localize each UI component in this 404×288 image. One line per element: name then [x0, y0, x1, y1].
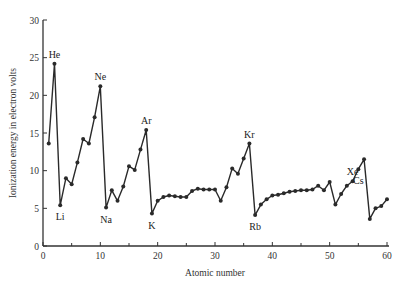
element-label-na: Na	[100, 214, 112, 225]
data-point	[328, 180, 332, 184]
y-tick-label: 15	[30, 129, 40, 139]
data-point	[333, 203, 337, 207]
data-point	[87, 142, 91, 146]
ionization-energy-chart: 0510152025300102030405060 HeNeArKrXeLiNa…	[0, 0, 404, 288]
data-series	[47, 62, 389, 221]
x-axis-title: Atomic number	[185, 268, 246, 278]
data-point	[247, 142, 251, 146]
data-point	[219, 199, 223, 203]
element-label-rb: Rb	[249, 221, 261, 232]
data-point	[127, 164, 131, 168]
element-annotations: HeNeArKrXeLiNaKRbCs	[49, 49, 364, 232]
data-point	[310, 188, 314, 192]
data-point	[196, 187, 200, 191]
element-label-k: K	[148, 220, 156, 231]
x-tick-label: 10	[96, 251, 106, 261]
data-point	[339, 192, 343, 196]
data-point	[202, 188, 206, 192]
element-label-ne: Ne	[94, 71, 106, 82]
data-point	[150, 212, 154, 216]
chart-axes	[43, 20, 389, 246]
data-point	[110, 188, 114, 192]
element-label-kr: Kr	[244, 129, 255, 140]
data-point	[374, 206, 378, 210]
data-point	[224, 185, 228, 189]
data-point	[98, 84, 102, 88]
x-tick-label: 40	[268, 251, 278, 261]
data-point	[368, 217, 372, 221]
data-point	[379, 204, 383, 208]
y-tick-label: 10	[30, 166, 40, 176]
y-tick-label: 25	[30, 53, 40, 63]
data-point	[305, 188, 309, 192]
y-axis-title: Ionization energy in electron volts	[8, 68, 18, 198]
data-point	[121, 184, 125, 188]
data-point	[276, 193, 280, 197]
x-tick-label: 0	[41, 251, 46, 261]
data-point	[322, 188, 326, 192]
data-point	[265, 197, 269, 201]
data-point	[345, 184, 349, 188]
x-tick-label: 20	[153, 251, 163, 261]
y-tick-label: 20	[30, 91, 40, 101]
x-tick-label: 50	[325, 251, 335, 261]
data-point	[47, 142, 51, 146]
data-point	[293, 189, 297, 193]
data-point	[385, 197, 389, 201]
data-point	[167, 194, 171, 198]
data-point	[184, 195, 188, 199]
data-point	[138, 148, 142, 152]
data-point	[81, 137, 85, 141]
data-point	[179, 195, 183, 199]
data-point	[207, 188, 211, 192]
data-point	[253, 213, 257, 217]
y-tick-label: 0	[34, 242, 39, 252]
data-point	[236, 172, 240, 176]
element-label-ar: Ar	[141, 115, 152, 126]
data-point	[213, 188, 217, 192]
data-point	[299, 188, 303, 192]
element-label-cs: Cs	[353, 175, 364, 186]
data-point	[190, 189, 194, 193]
data-point	[242, 157, 246, 161]
data-point	[282, 191, 286, 195]
data-point	[64, 176, 68, 180]
y-tick-label: 5	[34, 204, 39, 214]
data-point	[144, 128, 148, 132]
data-point	[70, 182, 74, 186]
data-point	[362, 157, 366, 161]
data-point	[58, 203, 62, 207]
data-point	[133, 168, 137, 172]
data-point	[230, 166, 234, 170]
data-point	[52, 62, 56, 66]
data-point	[161, 195, 165, 199]
data-point	[93, 115, 97, 119]
data-point	[75, 160, 79, 164]
data-point	[173, 194, 177, 198]
data-point	[104, 206, 108, 210]
data-point	[288, 190, 292, 194]
x-tick-label: 30	[210, 251, 220, 261]
data-point	[270, 194, 274, 198]
element-label-li: Li	[56, 211, 65, 222]
data-point	[116, 199, 120, 203]
y-tick-label: 30	[30, 16, 40, 26]
data-point	[316, 184, 320, 188]
element-label-he: He	[49, 49, 61, 60]
data-point	[259, 203, 263, 207]
data-point	[156, 199, 160, 203]
x-tick-label: 60	[382, 251, 392, 261]
